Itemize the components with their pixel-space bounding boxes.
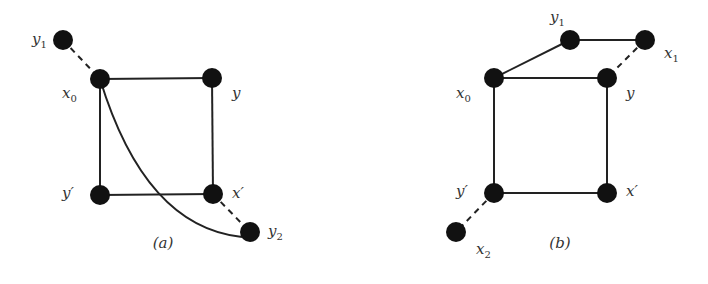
node-y1 (53, 30, 73, 50)
edge-x0-y2 (100, 79, 242, 237)
caption-a: (a) (153, 234, 174, 252)
node-label-x2: x2 (476, 240, 491, 260)
node-yp (90, 185, 110, 205)
node-x2 (446, 222, 466, 242)
panel-a: y1x0yy′x′y2(a) (31, 30, 283, 252)
node-label-y1: y1 (549, 8, 565, 28)
node-label-xp: x′ (626, 182, 638, 200)
node-label-y: y (231, 84, 241, 102)
node-x0 (484, 68, 504, 88)
panel-b: y1x1x0yy′x′x2(b) (446, 8, 679, 260)
node-label-y1: y1 (31, 30, 47, 50)
edge-yp-xp (100, 194, 213, 195)
node-y2 (240, 222, 260, 242)
node-y (202, 68, 222, 88)
diagram-canvas: y1x0yy′x′y2(a) y1x1x0yy′x′x2(b) (0, 0, 708, 284)
edge-x0-y1 (494, 40, 570, 78)
node-label-y2: y2 (267, 222, 283, 242)
node-yp (484, 183, 504, 203)
node-label-x1: x1 (664, 44, 679, 64)
graph-figure: y1x0yy′x′y2(a) y1x1x0yy′x′x2(b) (0, 0, 708, 284)
edge-y-xp (212, 78, 213, 194)
node-y (597, 68, 617, 88)
node-x0 (90, 69, 110, 89)
node-xp (203, 184, 223, 204)
node-label-x0: x0 (62, 84, 77, 104)
node-label-xp: x′ (232, 184, 244, 202)
node-label-yp: y′ (61, 184, 74, 202)
node-y1 (560, 30, 580, 50)
node-label-y: y (625, 84, 635, 102)
node-label-yp: y′ (455, 182, 468, 200)
caption-b: (b) (549, 234, 570, 252)
node-xp (597, 183, 617, 203)
node-x1 (635, 30, 655, 50)
node-label-x0: x0 (456, 84, 471, 104)
edge-x0-y (100, 78, 212, 79)
